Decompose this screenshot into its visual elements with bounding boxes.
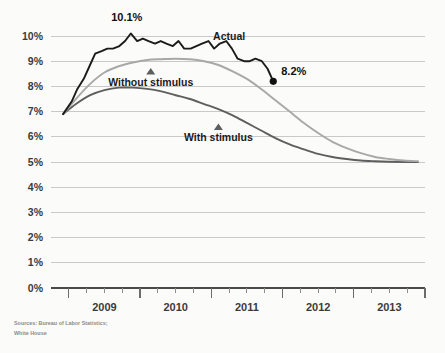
x-axis-label-2011: 2011 [235, 301, 259, 313]
y-axis-label-9%: 9% [28, 55, 44, 67]
chart-canvas: 0%1%2%3%4%5%6%7%8%9%10% 2009201020112012… [0, 0, 445, 353]
peak-value-label: 10.1% [111, 11, 142, 23]
y-axis-label-6%: 6% [28, 130, 44, 142]
y-axis-label-2%: 2% [28, 231, 44, 243]
y-axis-label-5%: 5% [28, 156, 44, 168]
y-axis-label-3%: 3% [28, 206, 44, 218]
source-credit-line-2: White House [14, 330, 47, 336]
series-label-with-stimulus: With stimulus [184, 131, 253, 143]
y-axis-label-7%: 7% [28, 105, 44, 117]
endpoint-value-label: 8.2% [281, 65, 306, 77]
x-axis-label-2010: 2010 [163, 301, 187, 313]
x-axis-label-2013: 2013 [377, 301, 401, 313]
y-axis-label-0%: 0% [28, 282, 44, 294]
source-credit-line-1: Sources: Bureau of Labor Statistics; [14, 320, 108, 326]
series-label-actual: Actual [213, 30, 245, 42]
y-axis-label-4%: 4% [28, 181, 44, 193]
y-axis-label-10%: 10% [22, 30, 44, 42]
y-axis-label-8%: 8% [28, 80, 44, 92]
actual-endpoint-dot [270, 78, 277, 85]
x-axis-label-2012: 2012 [306, 301, 330, 313]
x-axis-label-2009: 2009 [92, 301, 116, 313]
y-axis-label-1%: 1% [28, 256, 44, 268]
unemployment-chart-figure: 0%1%2%3%4%5%6%7%8%9%10% 2009201020112012… [0, 0, 445, 353]
series-label-without-stimulus: Without stimulus [108, 76, 193, 88]
